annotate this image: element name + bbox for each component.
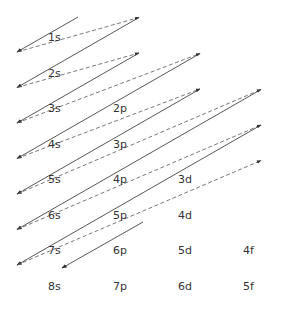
orbital-label-2s: 2s xyxy=(48,67,61,80)
orbital-label-8s: 8s xyxy=(48,280,61,293)
orbital-label-3p: 3p xyxy=(113,138,127,151)
orbital-label-3d: 3d xyxy=(178,173,192,186)
diagonal-arrow-2 xyxy=(17,18,139,88)
orbital-labels: 1s2s2p3s3p3d4s4p4d4f5s5p5d5f6s6p6d7s7p8s xyxy=(48,31,255,293)
orbital-label-5d: 5d xyxy=(178,244,192,257)
diagonal-arrow-4 xyxy=(17,54,200,159)
diagonal-arrow-8 xyxy=(62,222,143,268)
orbital-label-3s: 3s xyxy=(48,102,61,115)
orbital-label-2p: 2p xyxy=(113,102,127,115)
orbital-label-5p: 5p xyxy=(113,209,127,222)
orbital-label-4p: 4p xyxy=(113,173,127,186)
orbital-label-6s: 6s xyxy=(48,209,61,222)
dashed-return-arrow-2 xyxy=(17,53,139,88)
orbital-label-1s: 1s xyxy=(48,31,61,44)
orbital-label-7p: 7p xyxy=(113,280,127,293)
orbital-label-4f: 4f xyxy=(243,244,255,257)
orbital-label-5s: 5s xyxy=(48,173,61,186)
dashed-return-arrow-1 xyxy=(17,18,139,53)
orbital-label-4d: 4d xyxy=(178,209,192,222)
dashed-return-arrow-4 xyxy=(17,89,200,159)
dashed-return-arrow-3 xyxy=(17,54,200,124)
orbital-label-5f: 5f xyxy=(243,280,255,293)
orbital-label-6p: 6p xyxy=(113,244,127,257)
diagonal-arrow-5 xyxy=(17,89,200,194)
orbital-label-4s: 4s xyxy=(48,138,61,151)
orbital-label-6d: 6d xyxy=(178,280,192,293)
aufbau-diagram: 1s2s2p3s3p3d4s4p4d4f5s5p5d5f6s6p6d7s7p8s xyxy=(0,0,291,310)
orbital-label-7s: 7s xyxy=(48,244,61,257)
